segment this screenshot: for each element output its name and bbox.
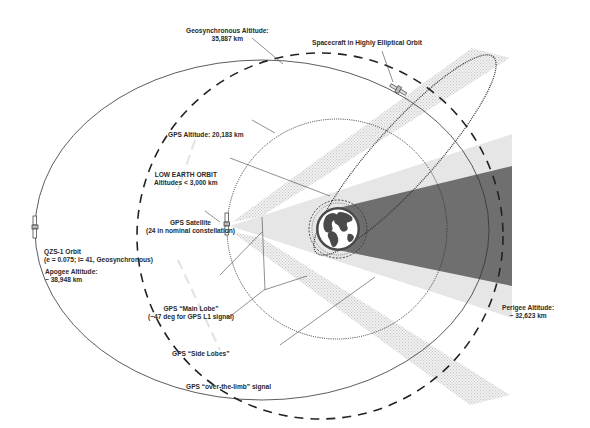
label-leo: LOW EARTH ORBIT Altitudes < 3,000 km <box>154 171 218 186</box>
apogee-label-line1: Apogee Altitude: <box>45 268 98 276</box>
leader-side-lobe <box>264 276 307 290</box>
main-lobe-label-line1: GPS “Main Lobe” <box>148 305 234 313</box>
leo-label-line2: Altitudes < 3,000 km <box>154 179 218 187</box>
label-over-the-limb: GPS “over-the-limb” signal <box>186 383 271 391</box>
heo-satellite-icon <box>389 82 408 97</box>
geosync-label-line1: Geosynchronous Altitude: <box>186 27 269 35</box>
label-apogee-altitude: Apogee Altitude: ~ 38,948 km <box>45 268 98 283</box>
label-side-lobes: GPS “Side Lobes” <box>172 350 230 358</box>
gps-sat-label-line1: GPS Satellite <box>146 219 235 227</box>
leader-gps-altitude <box>252 120 275 133</box>
qzs-label-line1: QZS-1 Orbit <box>44 248 153 256</box>
label-gps-altitude: GPS Altitude: 20,183 km <box>168 131 244 139</box>
label-perigee-altitude: Perigee Altitude: ~ 32,623 km <box>502 304 554 319</box>
leader-heo <box>382 51 393 82</box>
gps-sat-label-line2: (24 in nominal constellation) <box>146 227 235 235</box>
earth-icon <box>316 207 360 251</box>
label-heo-spacecraft: Spacecraft in Highly Elliptical Orbit <box>312 39 422 47</box>
label-gps-satellite: GPS Satellite (24 in nominal constellati… <box>146 219 235 234</box>
main-lobe-label-line2: (~47 deg for GPS L1 signal) <box>148 313 234 321</box>
apogee-label-line2: ~ 38,948 km <box>45 276 98 284</box>
qzs-label-line2: (e = 0.075; i= 41, Geosynchronous) <box>44 256 153 264</box>
geosync-label-line2: 35,887 km <box>186 35 269 43</box>
orbit-diagram-graphics <box>0 0 590 428</box>
label-qzs-orbit: QZS-1 Orbit (e = 0.075; i= 41, Geosynchr… <box>44 248 153 263</box>
label-main-lobe: GPS “Main Lobe” (~47 deg for GPS L1 sign… <box>148 305 234 320</box>
perigee-label-line2: ~ 32,623 km <box>502 312 554 320</box>
leo-label-line1: LOW EARTH ORBIT <box>154 171 218 179</box>
perigee-label-line1: Perigee Altitude: <box>502 304 554 312</box>
qzs-satellite-icon <box>32 216 38 238</box>
label-geosynchronous-altitude: Geosynchronous Altitude: 35,887 km <box>186 27 269 42</box>
orbit-diagram: Geosynchronous Altitude: 35,887 km Space… <box>0 0 590 428</box>
